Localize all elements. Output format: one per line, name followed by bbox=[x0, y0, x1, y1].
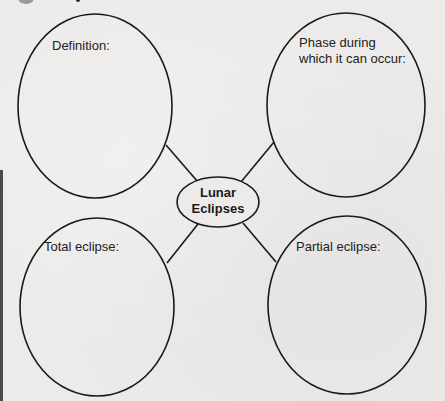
connector-total bbox=[167, 224, 198, 263]
worksheet-page: Definition: Phase during which it can oc… bbox=[0, 0, 445, 401]
connector-partial bbox=[243, 223, 276, 262]
partial-eclipse-label: Partial eclipse: bbox=[296, 239, 381, 255]
phase-label-line1: Phase during bbox=[299, 35, 376, 51]
center-title-line1: Lunar bbox=[178, 185, 258, 201]
connector-phase bbox=[241, 142, 274, 182]
total-eclipse-label: Total eclipse: bbox=[44, 239, 119, 255]
connector-definition bbox=[166, 145, 198, 182]
center-title-line2: Eclipses bbox=[178, 201, 258, 217]
definition-label: Definition: bbox=[52, 38, 110, 54]
phase-label-line2: which it can occur: bbox=[299, 51, 406, 67]
